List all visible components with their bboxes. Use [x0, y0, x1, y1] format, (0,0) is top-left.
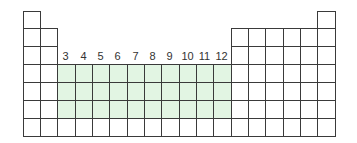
element-cell-p5-g7	[127, 82, 145, 101]
element-cell-p3-g14	[248, 46, 266, 65]
element-cell-p3-g17	[300, 46, 318, 65]
element-cell-p5-g16	[283, 82, 301, 101]
group-label-4: 4	[75, 50, 92, 62]
element-cell-p3-g1	[23, 46, 41, 65]
element-cell-p5-g11	[196, 82, 214, 101]
element-cell-p4-g1	[23, 64, 41, 83]
element-cell-p3-g13	[231, 46, 249, 65]
element-cell-p3-g18	[317, 46, 336, 65]
element-cell-p2-g16	[283, 28, 301, 47]
element-cell-p5-g13	[231, 82, 249, 101]
element-cell-p7-g5	[92, 118, 110, 137]
element-cell-p6-g9	[161, 100, 180, 119]
element-cell-p7-g9	[161, 118, 180, 137]
element-cell-p5-g12	[213, 82, 232, 101]
element-cell-p7-g13	[231, 118, 249, 137]
element-cell-p7-g6	[109, 118, 128, 137]
element-cell-p7-g16	[283, 118, 301, 137]
element-cell-p4-g18	[317, 64, 336, 83]
element-cell-p4-g5	[92, 64, 110, 83]
element-cell-p7-g17	[300, 118, 318, 137]
element-cell-p5-g17	[300, 82, 318, 101]
element-cell-p5-g3	[57, 82, 76, 101]
element-cell-p6-g7	[127, 100, 145, 119]
group-label-12: 12	[213, 50, 230, 62]
element-cell-p4-g3	[57, 64, 76, 83]
element-cell-p4-g14	[248, 64, 266, 83]
element-cell-p4-g13	[231, 64, 249, 83]
element-cell-p6-g17	[300, 100, 318, 119]
element-cell-p7-g11	[196, 118, 214, 137]
element-cell-p4-g9	[161, 64, 180, 83]
element-cell-p2-g2	[40, 28, 58, 47]
element-cell-p6-g5	[92, 100, 110, 119]
element-cell-p2-g18	[317, 28, 336, 47]
element-cell-p7-g10	[179, 118, 197, 137]
element-cell-p2-g15	[265, 28, 284, 47]
element-cell-p6-g14	[248, 100, 266, 119]
element-cell-p3-g2	[40, 46, 58, 65]
element-cell-p5-g2	[40, 82, 58, 101]
group-label-8: 8	[144, 50, 161, 62]
element-cell-p5-g9	[161, 82, 180, 101]
element-cell-p7-g12	[213, 118, 232, 137]
element-cell-p5-g5	[92, 82, 110, 101]
group-label-10: 10	[179, 50, 196, 62]
group-label-3: 3	[57, 50, 74, 62]
element-cell-p7-g14	[248, 118, 266, 137]
element-cell-p6-g12	[213, 100, 232, 119]
element-cell-p4-g4	[75, 64, 93, 83]
element-cell-p5-g4	[75, 82, 93, 101]
element-cell-p5-g14	[248, 82, 266, 101]
element-cell-p6-g4	[75, 100, 93, 119]
element-cell-p5-g8	[144, 82, 162, 101]
group-label-7: 7	[127, 50, 144, 62]
element-cell-p7-g2	[40, 118, 58, 137]
element-cell-p4-g10	[179, 64, 197, 83]
element-cell-p2-g14	[248, 28, 266, 47]
element-cell-p4-g2	[40, 64, 58, 83]
element-cell-p7-g8	[144, 118, 162, 137]
element-cell-p6-g2	[40, 100, 58, 119]
element-cell-p7-g1	[23, 118, 41, 137]
element-cell-p2-g17	[300, 28, 318, 47]
element-cell-p4-g8	[144, 64, 162, 83]
element-cell-p6-g15	[265, 100, 284, 119]
group-label-9: 9	[161, 50, 178, 62]
element-cell-p5-g10	[179, 82, 197, 101]
element-cell-p2-g1	[23, 28, 41, 47]
element-cell-p6-g8	[144, 100, 162, 119]
element-cell-p4-g16	[283, 64, 301, 83]
group-label-11: 11	[196, 50, 213, 62]
periodic-table-outline: 3456789101112	[0, 0, 357, 143]
group-label-5: 5	[92, 50, 109, 62]
element-cell-p7-g18	[317, 118, 336, 137]
group-label-6: 6	[109, 50, 126, 62]
element-cell-p1-g18	[317, 11, 336, 29]
element-cell-p6-g13	[231, 100, 249, 119]
element-cell-p4-g17	[300, 64, 318, 83]
element-cell-p3-g16	[283, 46, 301, 65]
element-cell-p7-g4	[75, 118, 93, 137]
element-cell-p6-g1	[23, 100, 41, 119]
element-cell-p4-g6	[109, 64, 128, 83]
element-cell-p5-g15	[265, 82, 284, 101]
element-cell-p7-g15	[265, 118, 284, 137]
element-cell-p6-g6	[109, 100, 128, 119]
element-cell-p5-g6	[109, 82, 128, 101]
element-cell-p5-g18	[317, 82, 336, 101]
element-cell-p7-g3	[57, 118, 76, 137]
element-cell-p2-g13	[231, 28, 249, 47]
element-cell-p4-g12	[213, 64, 232, 83]
element-cell-p6-g16	[283, 100, 301, 119]
element-cell-p6-g10	[179, 100, 197, 119]
element-cell-p5-g1	[23, 82, 41, 101]
element-cell-p1-g1	[23, 11, 41, 29]
element-cell-p6-g18	[317, 100, 336, 119]
element-cell-p4-g7	[127, 64, 145, 83]
element-cell-p6-g11	[196, 100, 214, 119]
element-cell-p7-g7	[127, 118, 145, 137]
element-cell-p4-g15	[265, 64, 284, 83]
element-cell-p4-g11	[196, 64, 214, 83]
element-cell-p6-g3	[57, 100, 76, 119]
